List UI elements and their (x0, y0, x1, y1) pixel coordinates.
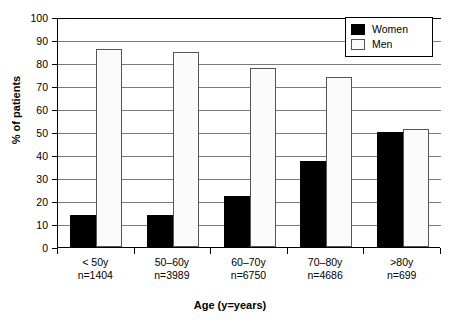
bar-men (250, 68, 276, 247)
bar-men (326, 77, 352, 247)
bar-women (377, 132, 403, 247)
x-category-label: < 50yn=1404 (57, 256, 134, 282)
x-tick-mark (57, 248, 58, 254)
legend: Women Men (345, 17, 433, 57)
bar-women (147, 215, 173, 247)
x-category-count: n=699 (363, 269, 440, 282)
x-category-label: >80yn=699 (363, 256, 440, 282)
x-tick-mark (363, 248, 364, 254)
bar-men (173, 52, 199, 248)
x-category-label: 70–80yn=4686 (287, 256, 364, 282)
x-tick-mark (440, 248, 441, 254)
x-tick-mark (210, 248, 211, 254)
legend-swatch-women-icon (351, 24, 365, 35)
bar-women (300, 161, 326, 247)
x-category-name: >80y (363, 256, 440, 269)
x-category-label: 50–60yn=3989 (134, 256, 211, 282)
x-category-name: 70–80y (287, 256, 364, 269)
x-tick-mark (287, 248, 288, 254)
x-category-name: 50–60y (134, 256, 211, 269)
legend-label-men: Men (372, 39, 392, 50)
y-tick-label: 100 (22, 13, 48, 23)
y-tick-label: 50 (22, 128, 48, 138)
y-tick-label: 40 (22, 151, 48, 161)
bar-men (96, 49, 122, 247)
y-tick-label: 20 (22, 197, 48, 207)
legend-swatch-men-icon (351, 39, 365, 50)
x-category-count: n=6750 (210, 269, 287, 282)
bar-women (70, 215, 96, 247)
x-tick-mark (134, 248, 135, 254)
y-tick-label: 80 (22, 59, 48, 69)
y-tick-label: 10 (22, 220, 48, 230)
x-category-count: n=1404 (57, 269, 134, 282)
y-tick-label: 30 (22, 174, 48, 184)
x-category-label: 60–70yn=6750 (210, 256, 287, 282)
y-tick-label: 0 (22, 243, 48, 253)
bar-women (224, 196, 250, 247)
y-tick-label: 60 (22, 105, 48, 115)
x-category-name: 60–70y (210, 256, 287, 269)
legend-item-men: Men (351, 37, 427, 52)
legend-label-women: Women (372, 24, 408, 35)
x-axis-title: Age (y=years) (0, 299, 460, 311)
legend-item-women: Women (351, 22, 427, 37)
x-category-count: n=4686 (287, 269, 364, 282)
bar-men (403, 129, 429, 247)
bar-chart: % of patients 0102030405060708090100 < 5… (0, 0, 460, 326)
x-category-name: < 50y (57, 256, 134, 269)
y-tick-label: 90 (22, 36, 48, 46)
y-axis-title: % of patients (10, 50, 22, 170)
x-category-count: n=3989 (134, 269, 211, 282)
y-tick-label: 70 (22, 82, 48, 92)
